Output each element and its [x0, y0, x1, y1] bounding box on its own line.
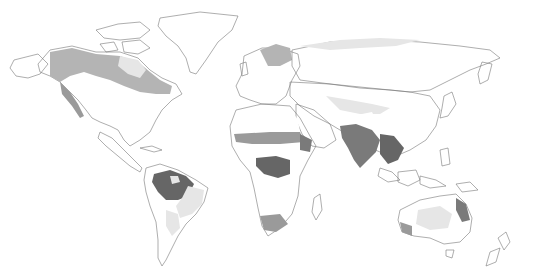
- world-map: [0, 0, 538, 278]
